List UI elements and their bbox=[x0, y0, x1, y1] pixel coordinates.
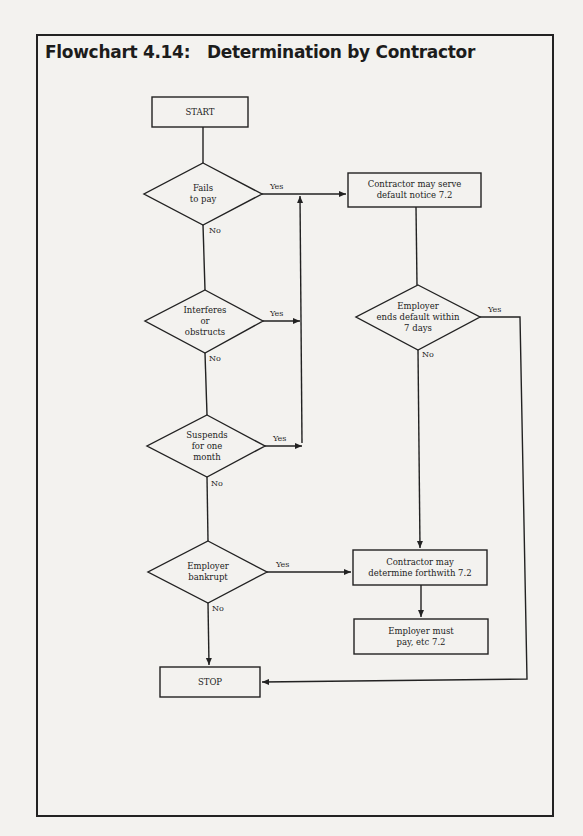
suspends-label: Suspends for one month bbox=[162, 427, 252, 465]
edge-label-no-suspends: No bbox=[211, 479, 223, 488]
interferes-label: Interferes or obstructs bbox=[160, 302, 250, 340]
must-pay-label: Employer must pay, etc 7.2 bbox=[354, 619, 488, 654]
bankrupt-label: Employer bankrupt bbox=[163, 557, 253, 587]
edge-label-no-bankrupt: No bbox=[212, 604, 224, 613]
start-label: START bbox=[152, 97, 248, 127]
flowchart-diagram bbox=[0, 0, 583, 836]
determine-label: Contractor may determine forthwith 7.2 bbox=[353, 550, 487, 585]
fails-to-pay-label: Fails to pay bbox=[160, 178, 246, 210]
edge-label-no-interferes: No bbox=[209, 354, 221, 363]
edge-label-yes-interferes: Yes bbox=[270, 309, 283, 318]
edge-label-no-fails: No bbox=[209, 226, 221, 235]
edge-label-yes-suspends: Yes bbox=[273, 434, 286, 443]
edge-label-yes-fails: Yes bbox=[270, 182, 283, 191]
edge-label-yes-ends-default: Yes bbox=[488, 305, 501, 314]
edge-label-no-ends-default: No bbox=[422, 350, 434, 359]
edge-label-yes-bankrupt: Yes bbox=[276, 560, 289, 569]
stop-label: STOP bbox=[160, 667, 260, 697]
serve-notice-label: Contractor may serve default notice 7.2 bbox=[348, 173, 481, 207]
ends-default-label: Employer ends default within 7 days bbox=[362, 298, 474, 336]
